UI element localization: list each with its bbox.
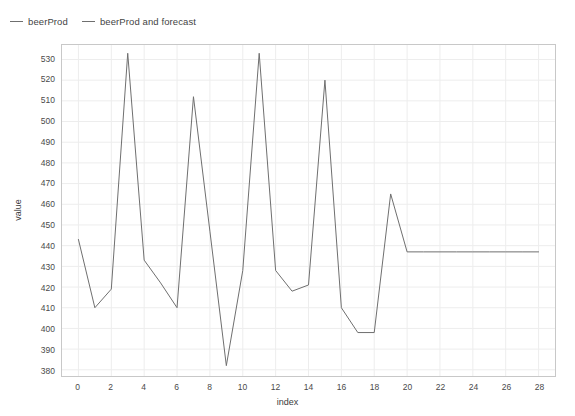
x-tick-label: 18 bbox=[370, 382, 379, 392]
x-tick-label: 6 bbox=[174, 382, 179, 392]
x-tick-label: 12 bbox=[271, 382, 280, 392]
legend-label: beerProd and forecast bbox=[100, 16, 196, 27]
y-tick-label: 440 bbox=[41, 241, 55, 251]
legend-swatch-icon bbox=[82, 21, 95, 22]
y-tick-label: 420 bbox=[41, 283, 55, 293]
x-tick-label: 4 bbox=[141, 382, 146, 392]
y-tick-label: 520 bbox=[41, 74, 55, 84]
y-tick-label: 470 bbox=[41, 178, 55, 188]
y-axis-title: value bbox=[13, 199, 23, 221]
plot-svg bbox=[62, 45, 555, 376]
y-tick-label: 490 bbox=[41, 137, 55, 147]
x-tick-label: 8 bbox=[207, 382, 212, 392]
y-tick-label: 400 bbox=[41, 324, 55, 334]
y-tick-label: 410 bbox=[41, 303, 55, 313]
y-tick-label: 390 bbox=[41, 345, 55, 355]
x-tick-label: 22 bbox=[436, 382, 445, 392]
x-axis-title: index bbox=[0, 397, 575, 407]
x-tick-label: 26 bbox=[502, 382, 511, 392]
y-tick-label: 500 bbox=[41, 116, 55, 126]
y-tick-label: 450 bbox=[41, 220, 55, 230]
x-tick-label: 10 bbox=[238, 382, 247, 392]
y-tick-label: 530 bbox=[41, 54, 55, 64]
x-tick-label: 24 bbox=[469, 382, 478, 392]
y-axis-tick-labels: 3803904004104204304404504604704804905005… bbox=[18, 0, 55, 416]
y-tick-label: 480 bbox=[41, 158, 55, 168]
x-axis-tick-labels: 0246810121416182022242628 bbox=[0, 382, 575, 396]
x-tick-label: 28 bbox=[535, 382, 544, 392]
grid-lines bbox=[62, 45, 555, 376]
y-tick-label: 510 bbox=[41, 95, 55, 105]
legend-item-beerprod-and-forecast: beerProd and forecast bbox=[82, 16, 196, 27]
y-tick-label: 430 bbox=[41, 262, 55, 272]
y-tick-label: 380 bbox=[41, 366, 55, 376]
x-tick-label: 14 bbox=[304, 382, 313, 392]
x-tick-label: 20 bbox=[403, 382, 412, 392]
x-tick-label: 16 bbox=[337, 382, 346, 392]
x-tick-label: 0 bbox=[75, 382, 80, 392]
y-tick-label: 460 bbox=[41, 199, 55, 209]
chart-figure: beerProd beerProd and forecast 380390400… bbox=[0, 0, 575, 416]
plot-area bbox=[61, 44, 556, 377]
x-tick-label: 2 bbox=[108, 382, 113, 392]
